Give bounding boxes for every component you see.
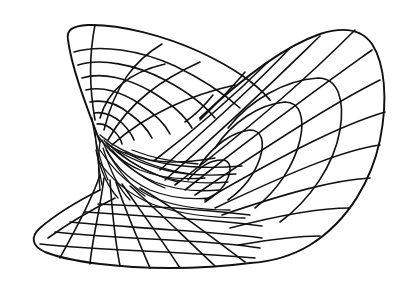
wireframe-surface-drawing <box>0 0 411 284</box>
upper-left-lobe <box>68 25 270 145</box>
right-lobe <box>155 30 385 263</box>
surface-figure <box>0 0 411 284</box>
